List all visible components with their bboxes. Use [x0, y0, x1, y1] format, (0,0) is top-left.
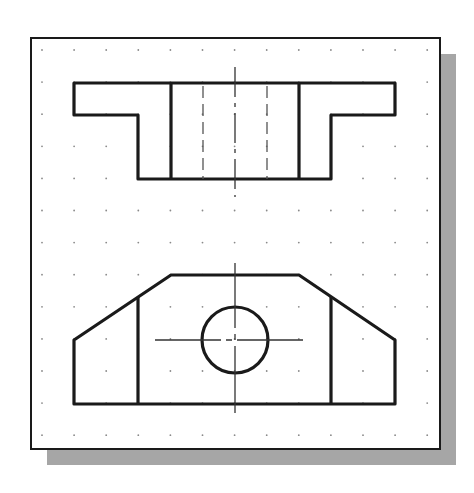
grid-dot — [362, 210, 364, 212]
grid-dot — [137, 49, 139, 51]
grid-dot — [41, 145, 43, 147]
grid-dot — [298, 306, 300, 308]
grid-dot — [41, 338, 43, 340]
grid-dot — [426, 178, 428, 180]
grid-dot — [362, 242, 364, 244]
grid-dot — [41, 306, 43, 308]
grid-dot — [41, 274, 43, 276]
grid-dot — [362, 370, 364, 372]
grid-dot — [170, 49, 172, 51]
grid-dot — [105, 434, 107, 436]
grid-dot — [137, 274, 139, 276]
grid-dot — [394, 434, 396, 436]
grid-dot — [105, 49, 107, 51]
grid-dot — [202, 49, 204, 51]
grid-dot — [330, 274, 332, 276]
grid-dot — [41, 242, 43, 244]
grid-dot — [394, 145, 396, 147]
grid-dot — [394, 242, 396, 244]
grid-dot — [234, 210, 236, 212]
grid-dot — [73, 306, 75, 308]
grid-dot — [266, 242, 268, 244]
grid-dot — [394, 49, 396, 51]
grid-dot — [426, 338, 428, 340]
grid-dot — [362, 178, 364, 180]
grid-dot — [41, 81, 43, 83]
grid-dot — [202, 242, 204, 244]
grid-dot — [394, 274, 396, 276]
grid-dot — [41, 210, 43, 212]
grid-dot — [137, 434, 139, 436]
grid-dot — [426, 370, 428, 372]
grid-dot — [105, 210, 107, 212]
grid-dot — [234, 434, 236, 436]
grid-dot — [362, 49, 364, 51]
grid-dot — [202, 434, 204, 436]
grid-dot — [362, 338, 364, 340]
grid-dot — [266, 210, 268, 212]
grid-dot — [426, 434, 428, 436]
grid-dot — [394, 210, 396, 212]
grid-dot — [41, 113, 43, 115]
grid-dot — [426, 242, 428, 244]
grid-dot — [170, 370, 172, 372]
grid-dot — [73, 434, 75, 436]
grid-dot — [266, 434, 268, 436]
grid-dot — [170, 210, 172, 212]
grid-dot — [426, 113, 428, 115]
grid-dot — [41, 370, 43, 372]
grid-dot — [362, 434, 364, 436]
grid-dot — [298, 242, 300, 244]
grid-dot — [202, 210, 204, 212]
grid-dot — [330, 49, 332, 51]
grid-dot — [298, 210, 300, 212]
grid-dot — [105, 338, 107, 340]
grid-dot — [394, 178, 396, 180]
grid-dot — [234, 242, 236, 244]
grid-dot — [73, 210, 75, 212]
grid-dot — [73, 274, 75, 276]
grid-dot — [298, 49, 300, 51]
grid-dot — [426, 306, 428, 308]
grid-dot — [105, 306, 107, 308]
grid-dot — [170, 306, 172, 308]
grid-dot — [362, 306, 364, 308]
grid-dot — [426, 49, 428, 51]
grid-dot — [330, 210, 332, 212]
grid-dot — [202, 306, 204, 308]
grid-dot — [362, 274, 364, 276]
grid-dot — [426, 210, 428, 212]
grid-dot — [330, 242, 332, 244]
grid-dot — [105, 145, 107, 147]
grid-dot — [234, 145, 236, 147]
grid-dot — [73, 49, 75, 51]
grid-dot — [137, 242, 139, 244]
grid-dot — [298, 370, 300, 372]
grid-dot — [266, 306, 268, 308]
grid-dot — [105, 370, 107, 372]
grid-dot — [137, 210, 139, 212]
grid-dot — [170, 242, 172, 244]
grid-dot — [202, 370, 204, 372]
grid-dot — [266, 49, 268, 51]
grid-dot — [266, 370, 268, 372]
grid-dot — [170, 434, 172, 436]
grid-dot — [362, 145, 364, 147]
grid-dot — [426, 274, 428, 276]
grid-dot — [330, 434, 332, 436]
grid-dot — [105, 178, 107, 180]
grid-dot — [73, 178, 75, 180]
grid-dot — [394, 306, 396, 308]
grid-dot — [73, 242, 75, 244]
drawing-canvas — [0, 0, 474, 493]
grid-dot — [298, 434, 300, 436]
grid-dot — [426, 145, 428, 147]
grid-dot — [41, 402, 43, 404]
grid-dot — [41, 178, 43, 180]
grid-dot — [426, 81, 428, 83]
grid-dot — [105, 242, 107, 244]
grid-dot — [73, 145, 75, 147]
grid-dot — [41, 434, 43, 436]
grid-dot — [105, 274, 107, 276]
grid-dot — [234, 49, 236, 51]
